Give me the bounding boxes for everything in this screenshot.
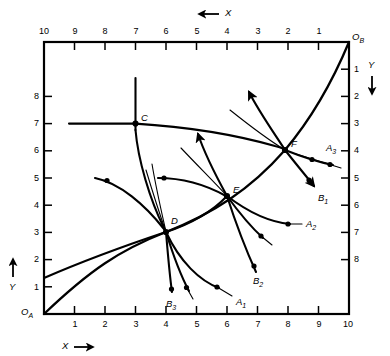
curve-e-to-b2 (227, 196, 256, 272)
curve-d-out-3 (166, 232, 219, 288)
x-axis-bottom-label: X (62, 341, 68, 351)
node-c-dot (132, 121, 138, 127)
tick-marks-right (341, 69, 349, 259)
x-axis-top-label: X (225, 8, 231, 18)
tick-right-6: 6 (354, 201, 364, 210)
curve-label-a1: A1 (236, 297, 246, 309)
origin-label-oa: OA (21, 307, 33, 319)
marker-dot (169, 286, 174, 291)
tick-top-2: 2 (282, 27, 294, 36)
node-label-e: E (233, 185, 239, 195)
tick-bottom-1: 1 (69, 320, 81, 329)
curve-label-b3-sub: 3 (172, 304, 176, 311)
tick-top-4: 4 (221, 27, 233, 36)
curve-c-to-d (136, 130, 167, 232)
curve-e-out-short (227, 196, 263, 238)
node-label-d: D (171, 216, 178, 226)
tick-bottom-4: 4 (160, 320, 172, 329)
tick-bottom-6: 6 (221, 320, 233, 329)
tangent-line-e-upper (181, 148, 227, 196)
curve-label-a1-sub: 1 (242, 302, 246, 309)
tick-bottom-3: 3 (130, 320, 142, 329)
curve-label-a2: A2 (306, 219, 316, 231)
tick-top-5: 5 (191, 27, 203, 36)
marker-dot (251, 263, 256, 268)
diagram-canvas (0, 0, 390, 356)
curve-label-b1-sub: 1 (324, 198, 328, 205)
tick-left-5: 5 (29, 174, 39, 183)
curve-label-b2: B2 (253, 276, 263, 288)
origin-ob-sub: B (359, 37, 364, 44)
marker-dot (104, 178, 109, 183)
node-label-f: F (291, 139, 297, 149)
tangent-line-d-out2 (187, 288, 194, 300)
curve-label-b3: B3 (166, 299, 176, 311)
tick-bottom-10: 10 (341, 320, 355, 329)
marker-dot (306, 177, 311, 182)
curve-b-into-e (158, 178, 226, 196)
y-axis-left-label: Y (9, 282, 15, 292)
tangent-line-a3 (296, 154, 341, 168)
tick-left-2: 2 (29, 255, 39, 264)
tick-right-7: 7 (354, 228, 364, 237)
tick-bottom-2: 2 (99, 320, 111, 329)
tick-top-10: 10 (38, 27, 50, 36)
tick-left-7: 7 (29, 119, 39, 128)
curve-label-b2-sub: 2 (259, 281, 263, 288)
tick-right-8: 8 (354, 255, 364, 264)
tick-right-5: 5 (354, 174, 364, 183)
tick-right-4: 4 (354, 146, 364, 155)
curve-d-to-e (166, 196, 227, 232)
tick-top-7: 7 (130, 27, 142, 36)
tangent-line-e-short (261, 236, 272, 245)
curve-label-a3: A3 (326, 143, 336, 155)
curve-lower-left-through-d (44, 232, 166, 278)
node-d-dot (163, 229, 169, 235)
tick-top-1: 1 (313, 27, 325, 36)
marker-dot (161, 175, 166, 180)
tick-left-4: 4 (29, 201, 39, 210)
tick-top-6: 6 (160, 27, 172, 36)
node-label-c: C (141, 113, 148, 123)
tangent-line-a1 (217, 287, 232, 296)
tick-bottom-5: 5 (191, 320, 203, 329)
tick-top-8: 8 (99, 27, 111, 36)
tick-top-9: 9 (69, 27, 81, 36)
tick-left-8: 8 (29, 92, 39, 101)
origin-label-ob: OB (352, 32, 364, 44)
curve-label-a3-sub: 3 (332, 148, 336, 155)
curve-label-a2-sub: 2 (312, 224, 316, 231)
tick-left-1: 1 (29, 283, 39, 292)
tick-left-6: 6 (29, 146, 39, 155)
tick-right-3: 3 (354, 119, 364, 128)
curve-e-arrow-up (198, 134, 227, 196)
tick-marks-top (75, 42, 319, 50)
tick-left-3: 3 (29, 228, 39, 237)
node-f-dot (282, 147, 288, 153)
tangent-line-f-upper (230, 110, 285, 150)
y-axis-right-label: Y (368, 60, 374, 70)
tick-bottom-9: 9 (313, 320, 325, 329)
tick-top-3: 3 (252, 27, 264, 36)
tick-bottom-7: 7 (252, 320, 264, 329)
tick-right-2: 2 (354, 92, 364, 101)
node-e-dot (224, 193, 230, 199)
tick-bottom-8: 8 (282, 320, 294, 329)
diagram-page: 10 9 8 7 6 5 4 3 2 1 1 2 3 4 5 6 7 8 9 1… (0, 0, 390, 356)
curve-c-to-f (136, 124, 286, 150)
origin-oa-sub: A (28, 312, 33, 319)
tick-marks-bottom (75, 306, 319, 314)
curve-label-b1: B1 (318, 193, 328, 205)
tick-right-1: 1 (354, 65, 364, 74)
tick-marks-left (44, 96, 52, 286)
